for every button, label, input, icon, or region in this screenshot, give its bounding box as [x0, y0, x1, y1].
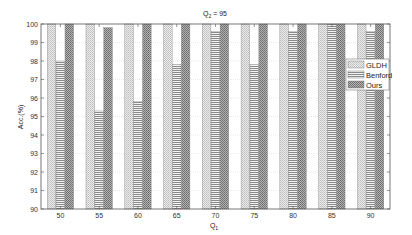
bar-ours-60: [143, 24, 152, 209]
legend-item-gldh: GLDH: [348, 61, 387, 70]
y-tick-label: 99: [30, 39, 38, 46]
y-tick-label: 90: [30, 206, 38, 213]
bar-gldh-80: [280, 24, 289, 209]
bar-gldh-65: [164, 24, 173, 209]
y-tick-label: 92: [30, 169, 38, 176]
legend-item-benford: Benford: [348, 71, 392, 80]
bar-gldh-90: [357, 24, 366, 209]
bar-benford-90: [366, 31, 375, 209]
y-tick-label: 100: [26, 21, 38, 28]
bar-benford-75: [250, 65, 259, 209]
x-tick-label: 70: [212, 212, 220, 219]
legend-item-ours: Ours: [348, 81, 383, 90]
bar-ours-70: [220, 24, 229, 209]
bar-ours-65: [181, 24, 190, 209]
bar-gldh-85: [319, 24, 328, 209]
x-tick-label: 65: [173, 212, 181, 219]
x-tick-label: 90: [367, 212, 375, 219]
bar-gldh-60: [125, 24, 134, 209]
bar-gldh-70: [202, 24, 211, 209]
bar-benford-85: [328, 24, 337, 209]
legend-swatch-ours: [348, 81, 364, 88]
legend-label-benford: Benford: [366, 71, 392, 80]
y-axis-label: Acc.(%): [17, 105, 25, 130]
y-tick-label: 98: [30, 58, 38, 65]
legend-swatch-benford: [348, 71, 364, 78]
bar-benford-50: [56, 61, 65, 209]
bar-ours-75: [259, 24, 268, 209]
bar-chart: 90919293949596979899100 5055606570758085…: [0, 0, 412, 235]
y-tick-label: 95: [30, 113, 38, 120]
x-axis-label: Q1: [210, 222, 218, 231]
x-tick-label: 60: [134, 212, 142, 219]
chart-title: Q2 = 95: [203, 10, 227, 19]
x-tick-label: 75: [250, 212, 258, 219]
bar-gldh-55: [86, 24, 95, 209]
bar-benford-80: [289, 31, 298, 209]
x-tick-label: 85: [328, 212, 336, 219]
y-tick-label: 91: [30, 187, 38, 194]
bar-gldh-50: [47, 24, 56, 209]
legend-label-gldh: GLDH: [366, 61, 387, 70]
bar-ours-90: [375, 24, 384, 209]
y-tick-label: 93: [30, 150, 38, 157]
legend-swatch-gldh: [348, 61, 364, 68]
y-tick-label: 96: [30, 95, 38, 102]
bar-ours-55: [104, 28, 113, 209]
bar-ours-85: [336, 24, 345, 209]
y-tick-label: 97: [30, 76, 38, 83]
x-tick-label: 80: [289, 212, 297, 219]
y-tick-label: 94: [30, 132, 38, 139]
legend-label-ours: Ours: [366, 81, 383, 90]
x-tick-label: 50: [56, 212, 64, 219]
bar-benford-65: [172, 65, 181, 209]
bar-benford-60: [134, 102, 143, 209]
bar-ours-80: [298, 24, 307, 209]
bar-gldh-75: [241, 24, 250, 209]
bar-benford-70: [211, 31, 220, 209]
x-tick-label: 55: [95, 212, 103, 219]
bar-benford-55: [95, 111, 104, 209]
bar-ours-50: [65, 24, 74, 209]
legend: GLDH Benford Ours: [346, 59, 392, 90]
bars: [47, 24, 384, 209]
